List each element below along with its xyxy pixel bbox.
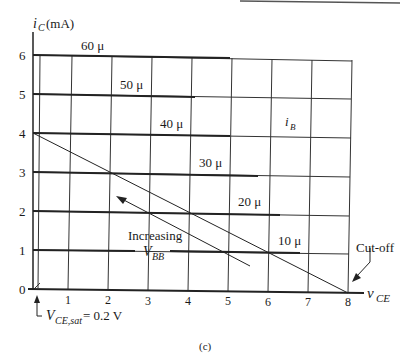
increasing-label: Increasing [128,228,183,243]
y-tick-4: 4 [19,126,26,141]
y-tick-5: 5 [19,87,26,102]
ib-label-10: 10 μ [278,233,301,248]
x-tick-2: 2 [105,293,111,307]
figure-label: (c) [199,340,212,353]
x-tick-8: 8 [345,295,351,309]
vcesat-label-sub: CE,sat [55,315,82,326]
y-tick-1: 1 [19,243,26,258]
x-axis-label-main: v [367,285,374,301]
x-tick-6: 6 [265,295,271,309]
ib-label-30: 30 μ [199,155,222,170]
ib-label-40: 40 μ [160,116,183,131]
ib-label-20: 20 μ [238,194,261,209]
y-axis-label-sub: C [38,22,45,33]
cutoff-label: Cut-off [356,240,395,255]
y-axis-label-unit: (mA) [46,16,74,31]
y-tick-6: 6 [19,48,26,63]
x-axis-label-sub: CE [376,292,390,304]
y-tick-2: 2 [19,204,26,219]
y-tick-0: 0 [19,282,26,297]
ib-family-label-sub: B [290,122,296,132]
x-tick-5: 5 [225,294,231,308]
ib-label-50: 50 μ [120,77,143,92]
x-tick-7: 7 [305,295,311,309]
y-axis-label-main: i [33,16,37,31]
ib-label-60: 60 μ [81,38,104,53]
y-tick-3: 3 [19,165,26,180]
x-tick-3: 3 [145,294,151,308]
ib-family-label-main: i [285,114,289,129]
chart-text-layer: i C (mA) 0 1 2 3 4 5 6 1 2 3 4 5 6 7 8 v… [0,0,413,363]
x-tick-1: 1 [65,293,71,307]
x-tick-4: 4 [185,294,191,308]
vcesat-value: = 0.2 V [83,308,123,323]
vbb-label-sub: BB [152,251,164,262]
